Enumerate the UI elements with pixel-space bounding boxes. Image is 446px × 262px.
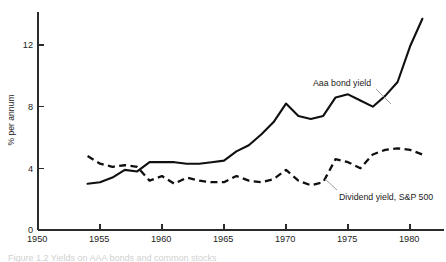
y-tick-group: 04812 (23, 40, 44, 235)
chart-canvas: 04812 1950195519601965197019751980 % per… (0, 0, 446, 262)
dividend-label-leader-line (325, 179, 337, 190)
x-tick-group: 1950195519601965197019751980 (27, 224, 419, 244)
dividend-series-label: Dividend yield, S&P 500 (339, 192, 433, 202)
x-tick-label: 1970 (275, 234, 295, 244)
figure-container: 04812 1950195519601965197019751980 % per… (0, 0, 446, 262)
y-tick-label: 8 (28, 102, 33, 112)
bond-series-label: Aaa bond yield (313, 78, 371, 88)
x-tick-label: 1950 (27, 234, 47, 244)
series-line-dividend-yield (88, 148, 423, 185)
series-line-aaa-bond-yield (88, 19, 423, 184)
x-tick-label: 1965 (213, 234, 233, 244)
figure-caption: Figure 1.2 Yields on AAA bonds and commo… (8, 253, 438, 262)
x-tick-label: 1980 (399, 234, 419, 244)
x-tick-label: 1955 (89, 234, 109, 244)
y-tick-label: 4 (28, 164, 33, 174)
y-axis-title: % per annum (6, 94, 16, 145)
y-tick-label: 12 (23, 40, 33, 50)
x-tick-label: 1975 (337, 234, 357, 244)
x-tick-label: 1960 (151, 234, 171, 244)
